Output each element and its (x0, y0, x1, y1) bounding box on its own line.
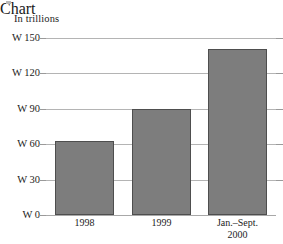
x-axis-tick-label-line: 1999 (152, 217, 172, 228)
y-tick-mark-left (39, 109, 46, 110)
y-tick-mark-left (39, 215, 46, 216)
y-tick-mark-left (39, 180, 46, 181)
y-tick-mark-right (276, 38, 283, 39)
y-tick-mark-right (276, 180, 283, 181)
x-axis-baseline (46, 215, 276, 216)
y-axis-tick-label: W 150 (0, 32, 40, 43)
gridline (46, 38, 276, 39)
y-axis-labels: W 0W 30W 60W 90W 120W 150 (0, 38, 40, 215)
chart-unit-caption: In trillions (14, 13, 59, 25)
y-tick-mark-left (39, 73, 46, 74)
y-axis-tick-label: W 60 (0, 138, 40, 149)
y-tick-mark-left (39, 144, 46, 145)
bar (55, 141, 114, 215)
x-axis-labels: 19981999Jan.–Sept.2000 (46, 217, 276, 244)
x-axis-tick-label-line: 1998 (75, 217, 95, 228)
x-axis-tick-label: Jan.–Sept.2000 (199, 217, 276, 240)
bar (132, 109, 191, 215)
y-tick-mark-left (39, 38, 46, 39)
plot-area (46, 38, 276, 215)
x-axis-tick-label-line: Jan.–Sept. (217, 217, 258, 228)
y-axis-tick-label: W 120 (0, 67, 40, 78)
x-axis-tick-label-line: 2000 (199, 229, 276, 241)
bar (208, 49, 267, 215)
y-tick-mark-right (276, 73, 283, 74)
y-axis-tick-label: W 30 (0, 174, 40, 185)
x-axis-tick-label: 1999 (123, 217, 200, 229)
scan-artifact-mark (6, 1, 11, 4)
y-axis-tick-label: W 0 (0, 209, 40, 220)
y-axis-tick-label: W 90 (0, 103, 40, 114)
y-tick-mark-right (276, 144, 283, 145)
bar-chart-figure: In trillions W 0W 30W 60W 90W 120W 150 1… (0, 0, 283, 244)
y-tick-mark-right (276, 109, 283, 110)
x-axis-tick-label: 1998 (46, 217, 123, 229)
